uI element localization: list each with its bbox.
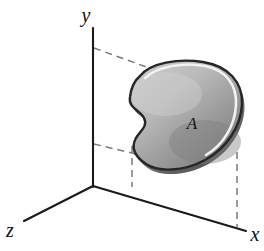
x-axis-line	[93, 186, 246, 231]
coordinate-axes-figure: A y x z	[0, 0, 264, 251]
y-axis-label: y	[80, 4, 91, 27]
x-axis-label: x	[250, 223, 260, 245]
figure-canvas: A y x z	[0, 0, 264, 251]
region-a-shape: A	[130, 61, 245, 174]
z-axis-label: z	[5, 219, 14, 241]
region-a-label: A	[186, 114, 198, 133]
top-projection-dash	[94, 48, 152, 69]
region-a-light-blot	[130, 72, 202, 116]
z-axis-line	[24, 186, 93, 221]
